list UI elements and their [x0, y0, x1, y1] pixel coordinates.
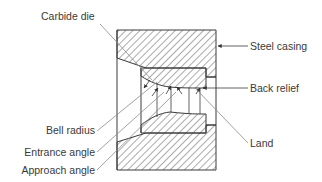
- carbide-die-bottom: [141, 112, 206, 133]
- label-land: Land: [250, 137, 273, 149]
- label-steel-casing: Steel casing: [250, 40, 307, 52]
- label-carbide-die: Carbide die: [41, 10, 95, 22]
- label-bell-radius: Bell radius: [46, 124, 95, 136]
- carbide-die-top: [141, 68, 206, 88]
- label-approach-angle: Approach angle: [21, 164, 95, 176]
- wire-drawing-die-diagram: Carbide die Steel casing Back relief Lan…: [0, 0, 322, 182]
- label-back-relief: Back relief: [250, 82, 299, 94]
- label-entrance-angle: Entrance angle: [24, 146, 95, 158]
